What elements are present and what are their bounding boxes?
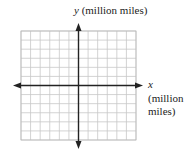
x-axis-unit-line1: (million: [148, 92, 183, 104]
y-axis-down-arrow-icon: [76, 141, 82, 149]
x-axis-variable: x: [148, 78, 153, 90]
y-axis-unit: (million miles): [82, 4, 148, 16]
x-axis-unit-line2: miles): [148, 105, 176, 117]
y-axis-up-arrow-icon: [76, 23, 82, 31]
x-axis-right-arrow-icon: [135, 83, 143, 89]
y-axis-label: y (million miles): [74, 4, 147, 16]
coordinate-grid: [0, 0, 190, 157]
y-axis-variable: y: [74, 4, 79, 16]
x-axis-left-arrow-icon: [13, 83, 21, 89]
